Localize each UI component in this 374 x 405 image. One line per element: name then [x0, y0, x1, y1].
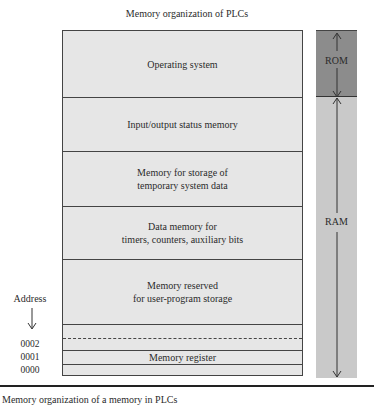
figure-caption: Memory organization of a memory in PLCs	[2, 394, 177, 405]
address-0000: 0000	[0, 365, 60, 375]
address-label: Address	[0, 293, 60, 304]
address-0001: 0001	[0, 352, 60, 362]
horizontal-rule	[0, 385, 374, 387]
address-0002: 0002	[0, 339, 60, 349]
